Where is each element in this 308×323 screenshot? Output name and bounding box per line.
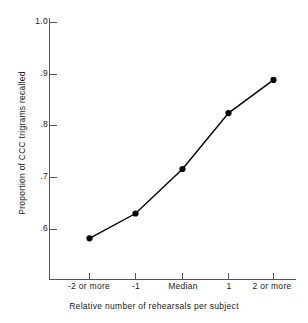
x-axis-ticks	[90, 273, 274, 280]
data-point-markers	[86, 77, 276, 242]
plot-area	[0, 0, 308, 323]
chart-figure: Proportion of CCC trigrams recalled 1.0 …	[0, 0, 308, 323]
x-tick-label: 2 or more	[252, 281, 291, 291]
data-point	[179, 166, 185, 172]
data-line-series-1	[90, 80, 274, 238]
x-axis-tick-labels: -2 or more -1 Median 1 2 or more	[0, 281, 308, 295]
x-tick-label: -2 or more	[68, 281, 110, 291]
data-point	[225, 110, 231, 116]
data-point	[132, 210, 138, 216]
x-axis-label: Relative number of rehearsals per subjec…	[0, 301, 308, 311]
y-axis-ticks	[50, 23, 57, 230]
x-tick-label: Median	[168, 281, 198, 291]
data-point	[86, 235, 92, 241]
x-tick-label: -1	[132, 281, 140, 291]
x-tick-label: 1	[226, 281, 231, 291]
data-point	[270, 77, 276, 83]
